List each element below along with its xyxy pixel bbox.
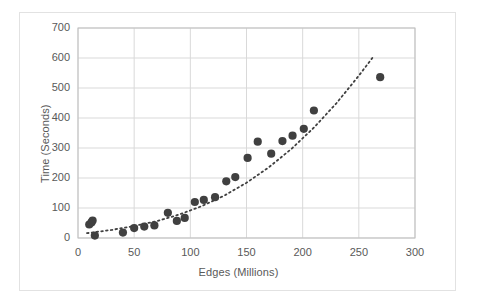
data-point (244, 154, 252, 162)
scatter-chart-canvas (0, 0, 477, 307)
data-point (150, 221, 158, 229)
x-tick-label: 300 (395, 246, 435, 258)
data-point (254, 138, 262, 146)
data-point (173, 217, 181, 225)
y-tick-label: 500 (30, 81, 70, 93)
x-tick-label: 200 (283, 246, 323, 258)
y-tick-label: 600 (30, 51, 70, 63)
x-tick-label: 150 (227, 246, 267, 258)
data-point (222, 177, 230, 185)
data-point (267, 150, 275, 158)
x-tick-label: 100 (170, 246, 210, 258)
data-point (191, 198, 199, 206)
trendline-path (87, 58, 372, 233)
data-point (130, 224, 138, 232)
data-point (200, 196, 208, 204)
y-tick-label: 400 (30, 111, 70, 123)
y-tick-label: 200 (30, 171, 70, 183)
trendline (87, 58, 372, 233)
data-point (278, 137, 286, 145)
data-point (376, 73, 384, 81)
y-tick-label: 300 (30, 141, 70, 153)
data-point (300, 125, 308, 133)
x-tick-label: 0 (58, 246, 98, 258)
y-tick-label: 100 (30, 201, 70, 213)
y-tick-label: 0 (30, 231, 70, 243)
x-tick-label: 50 (114, 246, 154, 258)
data-point (140, 223, 148, 231)
data-point (231, 173, 239, 181)
data-point (164, 209, 172, 217)
data-point (288, 132, 296, 140)
data-point (89, 217, 97, 225)
data-point (211, 193, 219, 201)
y-tick-label: 700 (30, 21, 70, 33)
data-points (85, 73, 384, 240)
x-axis-title: Edges (Millions) (0, 266, 477, 278)
x-tick-label: 250 (339, 246, 379, 258)
gridlines (78, 28, 415, 238)
data-point (310, 106, 318, 114)
data-point (181, 214, 189, 222)
data-point (119, 229, 127, 237)
data-point (91, 232, 99, 240)
